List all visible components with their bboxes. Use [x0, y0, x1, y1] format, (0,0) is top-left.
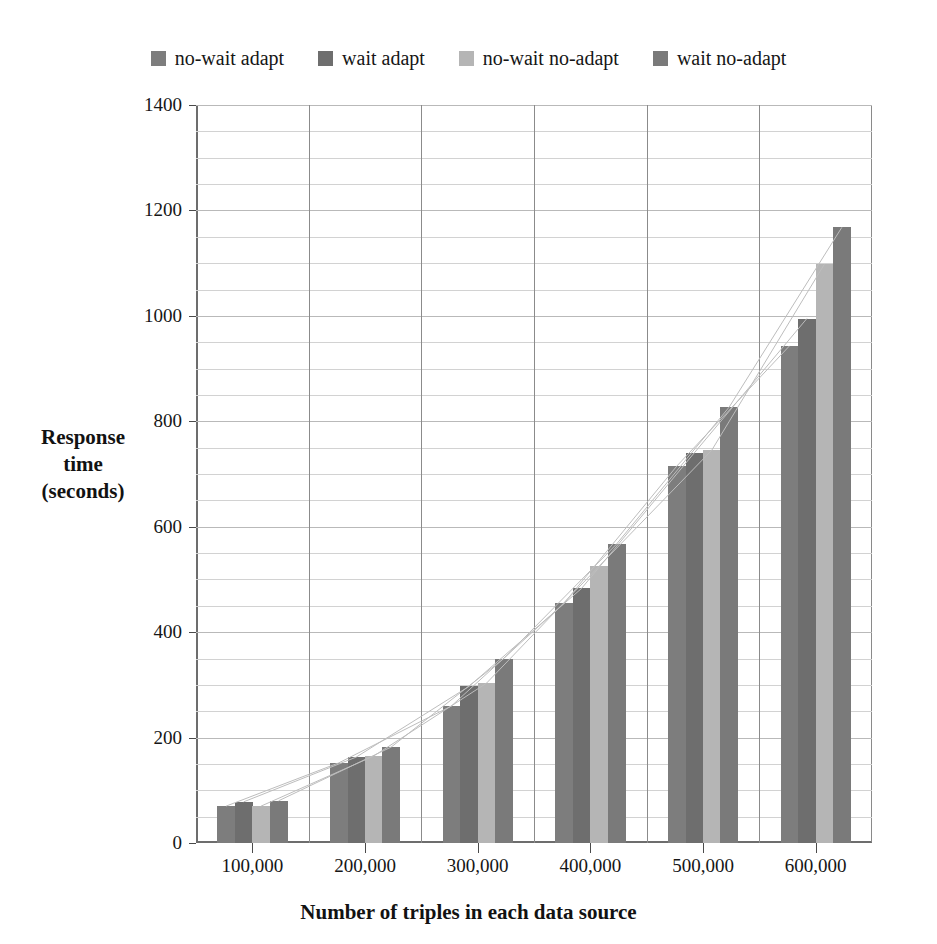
legend-swatch-icon [459, 51, 474, 66]
y-axis-tick-mark [189, 316, 196, 317]
legend-entry[interactable]: wait no-adapt [653, 48, 786, 68]
bar [608, 544, 626, 843]
bar [816, 264, 834, 843]
y-axis-tick-label: 1400 [72, 94, 182, 116]
legend-label: wait adapt [342, 48, 425, 68]
y-axis-tick-label: 400 [72, 621, 182, 643]
y-axis-tick-labels: 0200400600800100012001400 [0, 105, 190, 843]
y-axis-tick-mark [189, 105, 196, 106]
x-axis-tick-mark [478, 843, 479, 853]
x-axis-tick-mark [816, 843, 817, 853]
chart-legend: no-wait adaptwait adaptno-wait no-adaptw… [0, 48, 937, 68]
x-axis-tick-mark [252, 843, 253, 853]
y-axis-tick-mark [189, 527, 196, 528]
bar [668, 466, 686, 843]
y-axis-tick-mark [189, 632, 196, 633]
gridline-vertical [759, 105, 760, 843]
legend-label: wait no-adapt [677, 48, 786, 68]
legend-entry[interactable]: no-wait no-adapt [459, 48, 619, 68]
bar [270, 801, 288, 843]
y-axis-tick-mark [189, 843, 196, 844]
legend-swatch-icon [318, 51, 333, 66]
x-axis-tick-label: 600,000 [746, 855, 886, 877]
x-axis-title: Number of triples in each data source [0, 900, 937, 925]
bar [252, 806, 270, 843]
legend-entry[interactable]: wait adapt [318, 48, 425, 68]
legend-label: no-wait adapt [175, 48, 284, 68]
bar [478, 683, 496, 843]
bar [798, 319, 816, 844]
bar [382, 747, 400, 843]
gridline-vertical [421, 105, 422, 843]
y-axis-tick-label: 0 [72, 832, 182, 854]
legend-entry[interactable]: no-wait adapt [151, 48, 284, 68]
bar [217, 806, 235, 843]
y-axis-tick-mark [189, 421, 196, 422]
bar [495, 659, 513, 844]
legend-label: no-wait no-adapt [483, 48, 619, 68]
bar [235, 802, 253, 843]
y-axis-tick-label: 1000 [72, 305, 182, 327]
bar [573, 588, 591, 843]
bar [365, 756, 383, 843]
bar [555, 603, 573, 843]
bar [833, 227, 851, 843]
legend-swatch-icon [653, 51, 668, 66]
bar [703, 450, 721, 843]
y-axis-tick-label: 1200 [72, 199, 182, 221]
gridline-vertical [309, 105, 310, 843]
y-axis-tick-label: 200 [72, 727, 182, 749]
y-axis-tick-mark [189, 210, 196, 211]
y-axis-tick-mark [189, 738, 196, 739]
x-axis-tick-mark [703, 843, 704, 853]
legend-swatch-icon [151, 51, 166, 66]
x-axis-tick-mark [365, 843, 366, 853]
y-axis-tick-label: 600 [72, 516, 182, 538]
chart-figure: no-wait adaptwait adaptno-wait no-adaptw… [0, 0, 937, 944]
x-axis-tick-mark [590, 843, 591, 853]
bar [460, 686, 478, 843]
bar [330, 763, 348, 843]
bar [781, 346, 799, 843]
bar [590, 566, 608, 843]
gridline-vertical [534, 105, 535, 843]
bar [686, 453, 704, 843]
bar [443, 706, 461, 843]
plot-area [196, 105, 872, 843]
bar [348, 757, 366, 843]
gridline-vertical [647, 105, 648, 843]
x-axis-tick-labels: 100,000200,000300,000400,000500,000600,0… [196, 855, 872, 895]
bar [720, 407, 738, 843]
y-axis-tick-label: 800 [72, 410, 182, 432]
